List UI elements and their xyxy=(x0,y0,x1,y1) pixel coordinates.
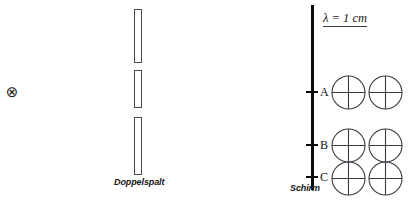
phasor-B-2 xyxy=(367,127,404,164)
screen-point-label-a: A xyxy=(320,86,329,98)
screen-tick-c xyxy=(306,176,318,178)
wave-source-cross-circle-icon: ⊗ xyxy=(3,83,21,101)
barrier-label: Doppelspalt xyxy=(114,177,164,187)
middle-blocker xyxy=(134,70,142,108)
phasor-A-1 xyxy=(330,74,367,111)
screen-line xyxy=(311,5,314,190)
phasor-C-2 xyxy=(367,160,404,197)
double-slit-diagram: ⊗ Doppelspalt ABC Schirm λ = 1 cm xyxy=(0,0,410,201)
phasor-A-2 xyxy=(367,74,404,111)
screen-label: Schirm xyxy=(290,183,320,193)
screen-tick-a xyxy=(306,91,318,93)
screen-tick-b xyxy=(306,144,318,146)
upper-blocker xyxy=(134,9,142,63)
wavelength-annotation: λ = 1 cm xyxy=(323,12,367,27)
phasor-B-1 xyxy=(330,127,367,164)
screen-point-label-b: B xyxy=(320,139,328,151)
screen-point-label-c: C xyxy=(320,171,328,183)
lower-blocker xyxy=(134,117,142,175)
phasor-C-1 xyxy=(330,160,367,197)
